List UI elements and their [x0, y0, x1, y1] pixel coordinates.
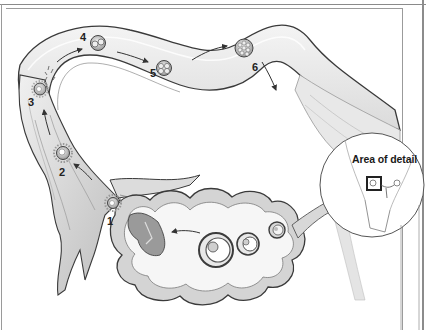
diagram-canvas: 1 2 3 4 5 6 Area of detail — [0, 0, 434, 330]
follicle-small — [269, 222, 285, 238]
stage-4-two-cell — [91, 36, 106, 51]
stage-label-6: 6 — [252, 62, 258, 73]
stage-label-4: 4 — [80, 32, 86, 43]
stage-6-morula — [235, 39, 253, 57]
stage-label-3: 3 — [28, 97, 34, 108]
area-of-detail-label: Area of detail — [352, 153, 417, 165]
stage-5-four-cell — [157, 61, 172, 76]
follicle-large — [199, 233, 233, 267]
stage-label-5: 5 — [150, 68, 156, 79]
stage-label-1: 1 — [107, 216, 113, 227]
stage-label-2: 2 — [59, 167, 65, 178]
illustration — [0, 0, 434, 330]
follicle-medium — [237, 233, 259, 255]
